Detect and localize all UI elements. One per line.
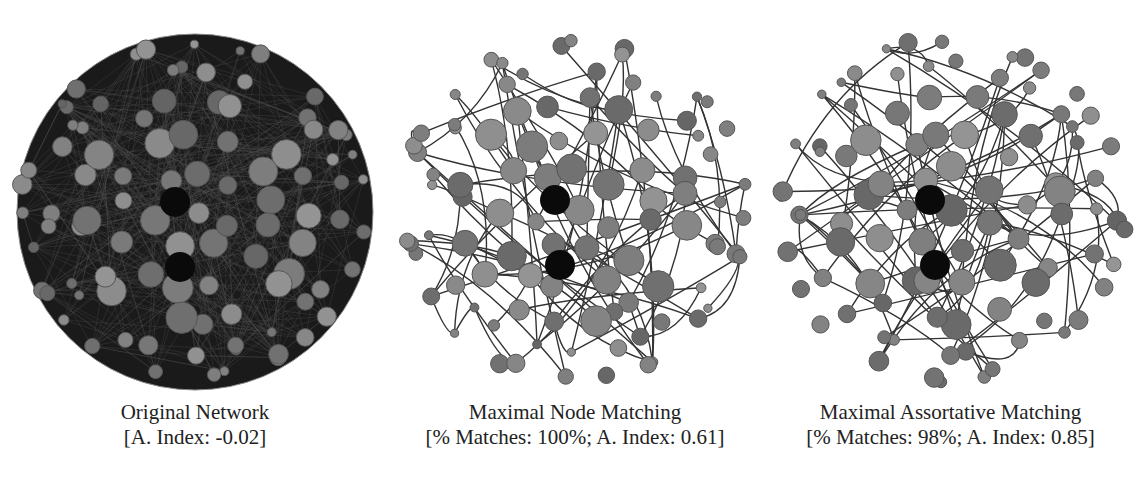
network-node: [949, 269, 975, 295]
caption-title: Original Network: [0, 400, 390, 425]
network-node: [640, 209, 661, 230]
network-node: [115, 192, 132, 209]
network-node: [692, 92, 701, 101]
network-node: [977, 210, 1002, 235]
network-node: [715, 196, 727, 208]
network-node: [219, 176, 237, 194]
network-node: [951, 121, 979, 149]
network-node: [118, 332, 133, 347]
network-node: [488, 320, 499, 331]
network-node: [975, 176, 1003, 204]
network-node: [1070, 136, 1084, 150]
network-node: [637, 119, 659, 141]
network-node: [615, 47, 630, 62]
network-node: [84, 140, 113, 169]
network-node: [516, 131, 547, 162]
caption-subtitle: [% Matches: 98%; A. Index: 0.85]: [760, 425, 1141, 450]
network-node: [67, 278, 77, 288]
network-node: [1008, 228, 1029, 249]
network-node: [1095, 278, 1113, 296]
network-node: [626, 75, 641, 90]
network-node: [704, 304, 712, 312]
hub-node: [545, 250, 575, 280]
network-graph-node-matching: [390, 0, 760, 400]
network-node: [791, 139, 801, 149]
network-node: [1070, 86, 1085, 101]
network-node: [345, 262, 361, 278]
network-node: [891, 67, 904, 80]
network-node: [936, 151, 966, 181]
network-node: [696, 283, 706, 293]
network-node: [329, 120, 348, 139]
network-node: [924, 368, 943, 387]
network-node: [114, 167, 131, 184]
network-node: [709, 239, 725, 255]
network-node: [289, 229, 316, 256]
network-node: [497, 241, 526, 270]
network-node: [651, 91, 661, 101]
network-node: [58, 100, 66, 108]
network-node: [448, 172, 473, 197]
network-node: [991, 69, 1008, 86]
network-node: [1019, 124, 1042, 147]
network-node: [1059, 327, 1071, 339]
network-node: [882, 45, 890, 53]
network-node: [1000, 148, 1017, 165]
network-node: [885, 101, 909, 125]
network-node: [491, 355, 509, 373]
network-node: [610, 340, 627, 357]
hub-node: [165, 252, 195, 282]
network-node: [773, 182, 792, 201]
network-node: [507, 354, 525, 372]
network-node: [400, 233, 415, 248]
network-node: [1023, 82, 1035, 94]
network-node: [923, 61, 934, 72]
network-node: [988, 297, 1012, 321]
network-node: [689, 310, 706, 327]
network-node: [1053, 106, 1070, 123]
network-node: [565, 34, 577, 46]
network-node: [307, 88, 324, 105]
caption-assortative-matching: Maximal Assortative Matching [% Matches:…: [760, 400, 1141, 450]
network-node: [1022, 269, 1050, 297]
network-node: [1087, 170, 1103, 186]
network-node: [869, 351, 889, 371]
network-node: [217, 131, 238, 152]
network-node: [1069, 310, 1088, 329]
network-node: [67, 80, 85, 98]
network-node: [1091, 203, 1103, 215]
network-node: [499, 76, 515, 92]
network-node: [917, 85, 942, 110]
network-node: [327, 154, 339, 166]
network-node: [693, 130, 704, 141]
network-node: [593, 169, 624, 200]
network-node: [296, 329, 314, 347]
caption-title: Maximal Node Matching: [390, 400, 760, 425]
network-node: [672, 211, 702, 241]
network-node: [207, 368, 220, 381]
network-node: [317, 307, 336, 326]
network-node: [814, 269, 831, 286]
network-node: [550, 132, 568, 150]
network-node: [1011, 332, 1027, 348]
network-node: [167, 64, 178, 75]
network-node: [244, 244, 268, 268]
panel-node-matching: Maximal Node Matching [% Matches: 100%; …: [390, 0, 760, 486]
network-node: [868, 171, 894, 197]
network-node: [221, 304, 242, 325]
network-node: [294, 167, 311, 184]
network-node: [216, 215, 237, 236]
caption-node-matching: Maximal Node Matching [% Matches: 100%; …: [390, 400, 760, 450]
network-node: [632, 328, 649, 345]
network-node: [85, 338, 100, 353]
caption-subtitle: [% Matches: 100%; A. Index: 0.61]: [390, 425, 760, 450]
network-node: [598, 367, 614, 383]
network-node: [897, 200, 917, 220]
network-node: [545, 312, 564, 331]
network-node: [139, 336, 158, 355]
network-node: [630, 158, 655, 183]
network-node: [237, 74, 252, 89]
panel-original-network: Original Network [A. Index: -0.02]: [0, 0, 390, 486]
network-node: [41, 219, 56, 234]
network-node: [517, 68, 528, 79]
